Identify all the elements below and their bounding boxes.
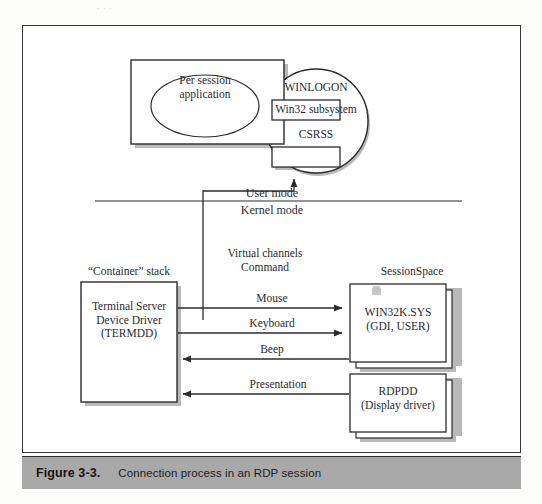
figure-caption-text: Connection process in an RDP session <box>118 467 321 479</box>
flow-label-keyboard: Keyboard <box>249 317 294 331</box>
page-background: · · · <box>0 0 542 504</box>
scan-artifact-text: · · · <box>96 2 113 14</box>
winlogon-box-label: WINLOGON <box>284 81 347 95</box>
flow-label-mouse: Mouse <box>256 292 287 306</box>
termdd-box-label: Terminal Server Device Driver (TERMDD) <box>92 300 166 341</box>
rdpdd-box-label: RDPDD (Display driver) <box>361 385 435 412</box>
figure-caption-inner: Figure 3-3. Connection process in an RDP… <box>36 466 321 480</box>
kernel-mode-label: Kernel mode <box>241 203 303 217</box>
container-stack-title: “Container” stack <box>88 265 170 279</box>
scan-smudge-icon <box>372 286 381 295</box>
user-mode-label: User mode <box>246 186 298 200</box>
virtual-channels-label: Virtual channels Command <box>228 247 303 274</box>
flow-label-presentation: Presentation <box>250 378 307 392</box>
figure-caption-bar: Figure 3-3. Connection process in an RDP… <box>22 456 521 489</box>
csrss-box-label: CSRSS <box>299 128 334 142</box>
win32k-box-label: WIN32K.SYS (GDI, USER) <box>365 306 432 333</box>
session-space-title: SessionSpace <box>381 265 444 279</box>
per-session-application-label: Per session application <box>179 74 230 101</box>
figure-caption-number: Figure 3-3. <box>36 466 100 480</box>
flow-label-beep: Beep <box>260 343 284 357</box>
win32-subsystem-label: Win32 subsystem <box>275 103 357 117</box>
